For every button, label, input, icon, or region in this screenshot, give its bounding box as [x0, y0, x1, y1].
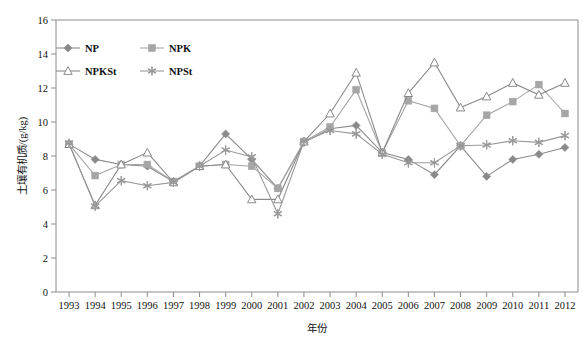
data-point-npkst-1996 [143, 148, 151, 156]
y-tick-label: 8 [43, 151, 48, 162]
x-tick-label: 2001 [267, 300, 288, 311]
y-tick-label: 6 [43, 185, 48, 196]
data-point-npk-2001 [274, 185, 281, 192]
data-point-npkst-2008 [456, 103, 464, 111]
x-tick-label: 2004 [346, 300, 368, 311]
y-axis-title: 土壤有机质/(g/kg) [16, 116, 29, 195]
legend-label-npk: NPK [169, 43, 192, 54]
legend-marker-npk [149, 45, 156, 52]
y-tick-label: 0 [43, 287, 48, 298]
x-tick-label: 1997 [163, 300, 184, 311]
series-npkst [65, 58, 569, 209]
legend-item-npk[interactable]: NPK [140, 43, 192, 54]
data-point-npkst-2004 [352, 68, 360, 76]
data-point-npkst-2011 [535, 90, 543, 98]
chart-series [65, 58, 569, 218]
y-tick-label: 12 [38, 83, 49, 94]
data-point-npk-1994 [92, 172, 99, 179]
data-point-np-2012 [561, 144, 569, 152]
x-tick-label: 1999 [215, 300, 236, 311]
data-point-npk-2009 [483, 112, 490, 119]
data-point-npk-2004 [353, 86, 360, 93]
y-tick-label: 16 [38, 15, 49, 26]
legend-label-npkst: NPKSt [85, 66, 117, 77]
x-tick-label: 1996 [137, 300, 158, 311]
x-tick-label: 1998 [189, 300, 210, 311]
x-tick-label: 2000 [241, 300, 262, 311]
data-point-npkst-2007 [430, 58, 438, 66]
chart-container: 0246810121416199319941995199619971998199… [0, 0, 586, 343]
legend-item-npst[interactable]: NPSt [140, 66, 193, 77]
data-point-npk-2000 [248, 163, 255, 170]
data-point-npkst-2009 [482, 92, 490, 100]
data-point-npst-2001 [274, 209, 282, 218]
data-point-npkst-2010 [509, 79, 517, 87]
x-tick-label: 2009 [476, 300, 497, 311]
line-chart: 0246810121416199319941995199619971998199… [0, 0, 586, 343]
data-point-np-2011 [535, 150, 543, 158]
chart-legend: NPNPKNPKStNPSt [56, 43, 193, 77]
data-point-np-1994 [91, 155, 99, 163]
data-point-npk-2012 [562, 110, 569, 117]
legend-label-npst: NPSt [169, 66, 193, 77]
data-point-npkst-2003 [326, 109, 334, 117]
data-point-np-2010 [509, 155, 517, 163]
x-tick-label: 1994 [85, 300, 107, 311]
legend-label-np: NP [85, 43, 100, 54]
x-tick-label: 2010 [502, 300, 523, 311]
y-tick-label: 4 [43, 219, 49, 230]
data-point-npk-1996 [144, 161, 151, 168]
x-tick-label: 2006 [398, 300, 419, 311]
data-point-npst-1999 [222, 145, 230, 154]
y-tick-label: 10 [38, 117, 49, 128]
data-point-npk-2010 [509, 98, 516, 105]
legend-item-npkst[interactable]: NPKSt [56, 66, 117, 77]
legend-item-np[interactable]: NP [56, 43, 100, 54]
legend-marker-np [64, 44, 72, 52]
x-tick-label: 2011 [529, 300, 550, 311]
x-tick-label: 2007 [424, 300, 445, 311]
x-tick-label: 2002 [293, 300, 314, 311]
data-point-npk-2011 [535, 81, 542, 88]
x-axis-title: 年份 [307, 322, 328, 334]
x-tick-label: 2003 [320, 300, 341, 311]
x-tick-label: 2008 [450, 300, 471, 311]
x-tick-label: 2005 [372, 300, 393, 311]
x-tick-label: 1995 [111, 300, 132, 311]
y-tick-label: 14 [38, 49, 49, 60]
x-tick-label: 1993 [59, 300, 80, 311]
y-tick-label: 2 [43, 253, 48, 264]
x-tick-label: 2012 [554, 300, 575, 311]
data-point-npkst-2012 [561, 79, 569, 87]
data-point-npk-2007 [431, 105, 438, 112]
data-point-npst-2012 [561, 131, 569, 140]
series-np [65, 121, 569, 192]
